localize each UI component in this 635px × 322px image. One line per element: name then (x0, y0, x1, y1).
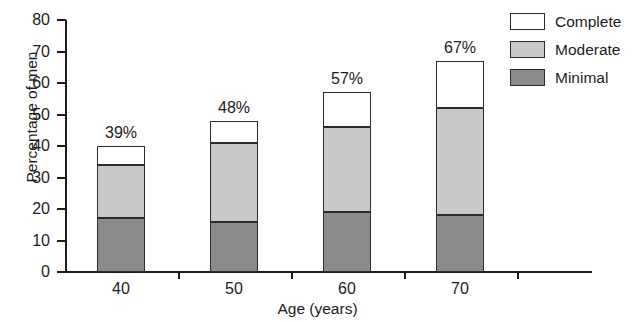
x-tick (517, 271, 519, 279)
x-axis-title: Age (years) (0, 300, 635, 318)
bar-segment-moderate[interactable] (210, 143, 258, 222)
legend-label: Minimal (555, 68, 608, 87)
bar-segment-minimal[interactable] (323, 212, 371, 272)
y-tick (57, 240, 66, 242)
y-tick-label: 0 (10, 264, 50, 280)
y-tick-label: 50 (10, 107, 50, 123)
y-tick (57, 51, 66, 53)
legend-label: Complete (555, 12, 621, 31)
bar-segment-moderate[interactable] (97, 165, 145, 219)
bar-segment-complete[interactable] (97, 146, 145, 165)
bar-segment-complete[interactable] (436, 61, 484, 108)
bar-total-label: 48% (194, 99, 274, 116)
y-tick (57, 114, 66, 116)
bar-segment-moderate[interactable] (323, 127, 371, 212)
y-tick-label: 60 (10, 75, 50, 91)
bar-segment-minimal[interactable] (210, 222, 258, 272)
x-tick-label: 60 (317, 280, 377, 298)
bar-segment-complete[interactable] (210, 121, 258, 143)
x-tick (404, 271, 406, 279)
y-tick-label: 80 (10, 12, 50, 28)
bar-segment-minimal[interactable] (97, 218, 145, 272)
y-tick (57, 208, 66, 210)
y-tick-label: 70 (10, 44, 50, 60)
stacked-bar-chart: Percentage of men 01020304050607080 4050… (0, 0, 635, 322)
y-tick (57, 271, 66, 273)
y-tick-label: 30 (10, 170, 50, 186)
y-tick (57, 177, 66, 179)
y-tick (57, 82, 66, 84)
y-tick-label: 40 (10, 138, 50, 154)
legend-label: Moderate (555, 40, 620, 59)
bar-segment-complete[interactable] (323, 92, 371, 127)
y-tick (57, 145, 66, 147)
bar-total-label: 67% (420, 39, 500, 56)
bar-total-label: 39% (81, 124, 161, 141)
x-tick-label: 70 (430, 280, 490, 298)
legend-swatch-icon (510, 41, 545, 58)
bar-segment-moderate[interactable] (436, 108, 484, 215)
y-tick-label: 10 (10, 233, 50, 249)
x-tick (291, 271, 293, 279)
y-tick (57, 19, 66, 21)
x-tick-label: 50 (204, 280, 264, 298)
x-tick-label: 40 (91, 280, 151, 298)
legend-swatch-icon (510, 69, 545, 86)
y-tick-label: 20 (10, 201, 50, 217)
bar-total-label: 57% (307, 70, 387, 87)
legend-swatch-icon (510, 13, 545, 30)
bar-segment-minimal[interactable] (436, 215, 484, 272)
x-tick (178, 271, 180, 279)
